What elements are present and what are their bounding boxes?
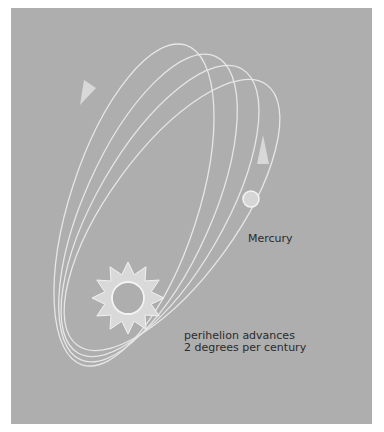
arrow-down-left-icon <box>80 80 96 105</box>
orbit-diagram <box>0 0 384 432</box>
mercury-planet-icon <box>243 191 259 207</box>
perihelion-note: perihelion advances 2 degrees per centur… <box>184 330 306 354</box>
perihelion-note-line-2: 2 degrees per century <box>184 342 306 354</box>
arrow-up-icon <box>257 135 269 164</box>
mercury-label: Mercury <box>248 233 293 245</box>
